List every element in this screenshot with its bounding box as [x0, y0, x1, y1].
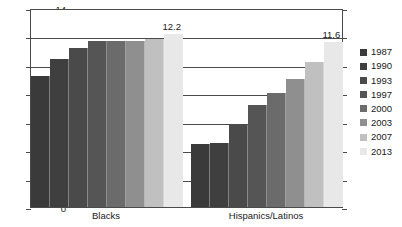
y-axis-tick: [26, 209, 31, 210]
legend: 19871990199319972000200320072013: [360, 46, 392, 157]
legend-swatch-icon: [360, 134, 367, 141]
category-label-hispanics-latinos: Hispanics/Latinos: [190, 211, 342, 221]
legend-label: 1990: [371, 61, 392, 71]
legend-swatch-icon: [360, 105, 367, 112]
bar-fill-1990: [50, 59, 69, 207]
bar-fill-2000: [267, 93, 286, 207]
legend-label: 2003: [371, 118, 392, 128]
legend-item-1993[interactable]: 1993: [360, 74, 392, 86]
bar-fill-1990: [210, 143, 229, 207]
legend-item-2007[interactable]: 2007: [360, 131, 392, 143]
bar-fill-1997: [88, 41, 107, 207]
bar-fill-2007: [145, 39, 164, 207]
bar-fill-1987: [191, 144, 210, 207]
bar-fill-2003: [286, 79, 305, 207]
legend-label: 2007: [371, 132, 392, 142]
legend-swatch-icon: [360, 49, 367, 56]
legend-label: 1987: [371, 47, 392, 57]
legend-label: 1997: [371, 90, 392, 100]
legend-label: 1993: [371, 76, 392, 86]
legend-item-1987[interactable]: 1987: [360, 46, 392, 58]
legend-label: 2013: [371, 147, 392, 157]
legend-swatch-icon: [360, 148, 367, 155]
bar-fill-1993: [229, 125, 248, 207]
legend-item-2000[interactable]: 2000: [360, 103, 392, 115]
legend-swatch-icon: [360, 91, 367, 98]
bar-fill-2003: [126, 41, 145, 207]
legend-label: 2000: [371, 104, 392, 114]
bar-chart: 02468101214 12.211.6 Blacks Hispanics/La…: [0, 0, 402, 227]
bar-fill-1993: [69, 48, 88, 207]
plot-area: [30, 9, 343, 208]
bar-fill-1987: [31, 76, 50, 207]
legend-swatch-icon: [360, 63, 367, 70]
bar-group-hispanics-latinos: [191, 10, 343, 207]
legend-item-2013[interactable]: 2013: [360, 145, 392, 157]
bar-fill-2013: [324, 42, 343, 207]
value-label-11.6: 11.6: [323, 30, 341, 40]
legend-item-1990[interactable]: 1990: [360, 60, 392, 72]
legend-swatch-icon: [360, 77, 367, 84]
bar-fill-2013: [164, 34, 183, 207]
value-label-12.2: 12.2: [163, 22, 182, 32]
legend-item-2003[interactable]: 2003: [360, 117, 392, 129]
legend-swatch-icon: [360, 119, 367, 126]
category-label-blacks: Blacks: [30, 211, 182, 221]
y-axis-tick-right: [342, 209, 347, 210]
bar-fill-1997: [248, 105, 267, 207]
bar-fill-2000: [107, 41, 126, 207]
bar-fill-2007: [305, 62, 324, 207]
legend-item-1997[interactable]: 1997: [360, 89, 392, 101]
bar-group-blacks: [31, 10, 183, 207]
